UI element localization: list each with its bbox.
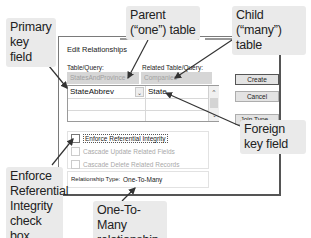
table-query-combo[interactable]: StatesAndProvince: [67, 72, 139, 84]
cascade-update-label: Cascade Update Related Fields: [83, 148, 175, 155]
callout-one-to-many: One-To-Many relationship: [93, 201, 167, 238]
callout-foreign-key-field: Foreign key field: [240, 120, 306, 154]
dialog-title: Edit Relationships: [67, 45, 127, 54]
grid-scrollbar[interactable]: ^ ⌄: [208, 86, 219, 121]
scroll-thumb[interactable]: [210, 98, 218, 108]
cascade-delete-label: Cascade Delete Related Records: [83, 161, 179, 168]
scroll-down-icon[interactable]: ⌄: [209, 110, 219, 120]
relationship-type-group: Relationship Type: One-To-Many: [67, 171, 209, 188]
scroll-up-icon[interactable]: ^: [209, 87, 219, 97]
callout-primary-key-field: Primary key field: [6, 18, 56, 67]
edit-relationships-dialog: Edit Relationships ? × Table/Query: Rela…: [58, 36, 281, 196]
relationship-type-label: Relationship Type:: [71, 176, 120, 182]
create-button[interactable]: Create: [235, 74, 279, 85]
field-mapping-grid: StateAbbrev ⌄ State ^ ⌄: [67, 85, 219, 122]
table-query-label: Table/Query:: [67, 64, 104, 71]
cascade-update-checkbox: [71, 147, 80, 156]
cascade-update-option: Cascade Update Related Fields: [71, 146, 175, 156]
chevron-down-icon[interactable]: ⌄: [135, 87, 144, 97]
primary-key-field-cell[interactable]: StateAbbrev: [70, 86, 114, 98]
cascade-delete-checkbox: [71, 160, 80, 169]
enforce-referential-integrity-label[interactable]: Enforce Referential Integrity: [83, 134, 168, 143]
cascade-delete-option: Cascade Delete Related Records: [71, 159, 179, 169]
foreign-key-field-cell[interactable]: State: [148, 86, 167, 98]
callout-child-table: Child (“many”) table: [232, 6, 306, 55]
callout-parent-table: Parent (“one”) table: [126, 6, 200, 40]
relationship-type-value: One-To-Many: [123, 176, 162, 183]
related-table-query-combo[interactable]: Companies: [141, 72, 212, 84]
callout-enforce-ri-checkbox: Enforce Referential Integrity check box: [6, 167, 63, 238]
related-table-query-label: Related Table/Query:: [142, 64, 203, 71]
grid-row-divider: [68, 110, 208, 111]
enforce-referential-integrity-checkbox[interactable]: [71, 134, 80, 143]
grid-row-divider: [68, 98, 208, 99]
cancel-button[interactable]: Cancel: [235, 91, 279, 102]
enforce-referential-integrity-option[interactable]: Enforce Referential Integrity: [71, 133, 168, 143]
grid-divider: [145, 86, 146, 121]
